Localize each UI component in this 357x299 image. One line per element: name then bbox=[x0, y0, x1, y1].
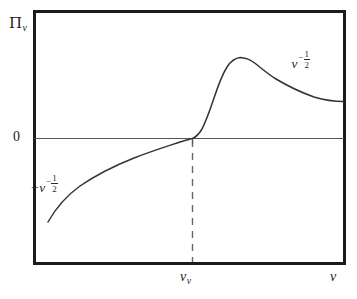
annotation-right-fraction: 12 bbox=[304, 51, 311, 69]
annotation-left-exponent: −12 bbox=[46, 175, 58, 193]
plot-canvas bbox=[0, 0, 357, 299]
annotation-negative-nu-power: −ν−12 bbox=[31, 176, 58, 196]
annotation-left-fraction: 12 bbox=[51, 175, 58, 193]
annotation-left-exponent-sign: − bbox=[46, 176, 51, 186]
annotation-right-variable: ν bbox=[292, 56, 298, 71]
y-axis-title: Πν bbox=[9, 16, 27, 33]
annotation-right-denominator: 2 bbox=[304, 61, 311, 69]
annotation-right-exponent: −12 bbox=[298, 51, 310, 69]
y-axis-title-subscript: ν bbox=[23, 22, 27, 33]
y-axis-title-base: Π bbox=[9, 14, 22, 32]
annotation-left-denominator: 2 bbox=[51, 185, 58, 193]
annotation-left-variable: ν bbox=[39, 180, 45, 195]
x-tick-base: ν bbox=[180, 269, 186, 284]
x-axis-title: ν bbox=[330, 270, 336, 284]
annotation-right-numerator: 1 bbox=[304, 51, 311, 59]
x-tick-subscript: ν bbox=[187, 276, 191, 286]
annotation-right-exponent-sign: − bbox=[298, 52, 303, 62]
x-axis-tick-label-nu-v: νν bbox=[180, 270, 191, 287]
y-axis-zero-label: 0 bbox=[13, 130, 20, 144]
plot-frame bbox=[34, 11, 344, 263]
annotation-left-sign: − bbox=[31, 180, 39, 195]
annotation-nu-power: ν−12 bbox=[291, 52, 310, 72]
annotation-left-numerator: 1 bbox=[51, 175, 58, 183]
figure-container: Πν 0 νν ν −ν−12 ν−12 bbox=[0, 0, 357, 299]
